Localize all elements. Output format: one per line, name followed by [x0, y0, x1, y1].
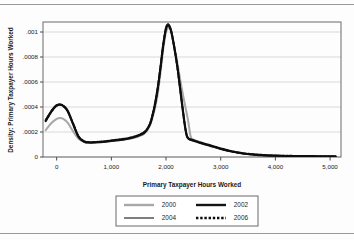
y-tick-label: .0004 — [23, 103, 39, 110]
series-line-2000 — [46, 28, 336, 157]
figure-container: 0.0002.0004.0006.0008.001 01,0002,0003,0… — [0, 0, 354, 240]
x-tick-label: 0 — [55, 163, 59, 170]
legend-label-2002[interactable]: 2002 — [234, 201, 249, 208]
chart-area: 0.0002.0004.0006.0008.001 01,0002,0003,0… — [0, 6, 354, 232]
chart-legend[interactable]: 2000200220042006 — [116, 196, 258, 226]
y-tick-label: .001 — [26, 28, 39, 35]
plot-frame — [43, 22, 341, 157]
y-tick-label: .0002 — [23, 128, 39, 135]
data-series-group — [46, 24, 336, 157]
x-tick-label: 3,000 — [213, 163, 229, 170]
legend-label-2000[interactable]: 2000 — [162, 201, 177, 208]
y-tick-label: 0 — [35, 153, 39, 160]
figure-bottom-rule — [0, 233, 354, 234]
y-axis: 0.0002.0004.0006.0008.001 — [23, 28, 43, 160]
x-tick-label: 1,000 — [104, 163, 120, 170]
x-tick-label: 5,000 — [322, 163, 338, 170]
x-axis-title: Primary Taxpayer Hours Worked — [143, 181, 242, 189]
figure-top-rule — [0, 4, 354, 5]
legend-label-2006[interactable]: 2006 — [234, 214, 249, 221]
y-tick-label: .0006 — [23, 78, 39, 85]
y-axis-title: Density: Primary Taxpayer Hours Worked — [7, 27, 15, 153]
y-tick-label: .0008 — [23, 53, 39, 60]
density-line-chart: 0.0002.0004.0006.0008.001 01,0002,0003,0… — [0, 6, 354, 232]
x-tick-label: 2,000 — [158, 163, 174, 170]
x-tick-label: 4,000 — [268, 163, 284, 170]
legend-label-2004[interactable]: 2004 — [162, 214, 177, 221]
x-axis: 01,0002,0003,0004,0005,000 — [55, 157, 338, 170]
